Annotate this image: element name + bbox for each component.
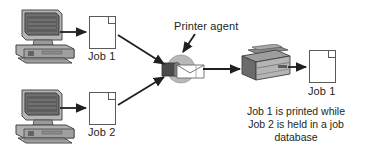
job2-input-document: [89, 92, 116, 125]
printer-icon: [238, 44, 294, 86]
arrow-job1-to-agent: [118, 35, 164, 64]
arrow-job2-to-agent: [118, 77, 164, 105]
caption-block: Job 1 is printed while Job 2 is held in …: [226, 105, 366, 144]
printer-agent-diagram: Job 1 Job 2 Printer agent: [0, 0, 366, 156]
printer-agent-label: Printer agent: [174, 20, 238, 32]
page-fold-icon: [108, 17, 115, 24]
arrow-label-to-agent: [183, 34, 195, 52]
caption-line-3: database: [226, 131, 366, 144]
job1-input-label: Job 1: [88, 50, 115, 62]
page-fold-icon: [108, 93, 115, 100]
job1-output-label: Job 1: [308, 85, 335, 97]
job1-output-document: [309, 50, 336, 83]
printer-agent-icon: [160, 52, 212, 86]
job2-input-label: Job 2: [88, 126, 115, 138]
caption-line-1: Job 1 is printed while: [226, 105, 366, 118]
computer-icon: [8, 8, 80, 66]
job1-input-document: [89, 16, 116, 49]
caption-line-2: Job 2 is held in a job: [226, 118, 366, 131]
page-fold-icon: [328, 51, 335, 58]
computer-icon: [8, 88, 80, 146]
